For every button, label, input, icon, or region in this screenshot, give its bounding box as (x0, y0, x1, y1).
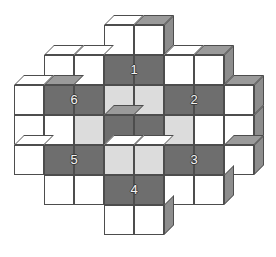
cube-front-face (134, 175, 164, 205)
cube-front-face (194, 145, 224, 175)
cube (74, 55, 104, 85)
cube-front-face (74, 175, 104, 205)
cube (164, 145, 194, 175)
cube-front-face (74, 115, 104, 145)
cube (164, 85, 194, 115)
cube-front-face (194, 85, 224, 115)
cube-front-face (194, 55, 224, 85)
cube (104, 175, 134, 205)
cube (104, 55, 134, 85)
cube (74, 175, 104, 205)
cube-front-face (44, 115, 74, 145)
cube (194, 115, 224, 145)
cube-front-face (164, 145, 194, 175)
cube-front-face (74, 145, 104, 175)
cube-front-face (104, 55, 134, 85)
cube (194, 55, 224, 85)
cube (224, 85, 254, 115)
cube-front-face (74, 55, 104, 85)
cube-front-face (134, 145, 164, 175)
cube (44, 145, 74, 175)
cube-front-face (134, 25, 164, 55)
cube-front-face (14, 85, 44, 115)
cube-front-face (194, 115, 224, 145)
cube-front-face (44, 175, 74, 205)
cube (44, 85, 74, 115)
cube (164, 115, 194, 145)
cube-front-face (134, 205, 164, 235)
cube-front-face (14, 145, 44, 175)
cube (44, 175, 74, 205)
cube (134, 205, 164, 235)
cube (194, 85, 224, 115)
cube (14, 85, 44, 115)
cube-front-face (104, 205, 134, 235)
cube-front-face (164, 55, 194, 85)
cube-front-face (104, 25, 134, 55)
cube (134, 145, 164, 175)
cube (164, 55, 194, 85)
cube (104, 205, 134, 235)
cube (104, 145, 134, 175)
cube (134, 25, 164, 55)
cube-front-face (224, 85, 254, 115)
cube-front-face (44, 145, 74, 175)
cube-front-face (164, 115, 194, 145)
cube (44, 115, 74, 145)
cube (134, 55, 164, 85)
cube-front-face (134, 85, 164, 115)
cube (104, 25, 134, 55)
cube (134, 175, 164, 205)
cube-front-face (164, 85, 194, 115)
cube (74, 145, 104, 175)
cube (74, 85, 104, 115)
cube-front-face (134, 55, 164, 85)
cube-front-face (104, 175, 134, 205)
cube-front-face (44, 85, 74, 115)
cube (14, 145, 44, 175)
cube-front-face (194, 175, 224, 205)
cube (194, 175, 224, 205)
cube-front-face (74, 85, 104, 115)
cube-front-face (104, 145, 134, 175)
cube (194, 145, 224, 175)
cube-figure: 123456 (0, 0, 276, 257)
cube (134, 85, 164, 115)
cube (74, 115, 104, 145)
